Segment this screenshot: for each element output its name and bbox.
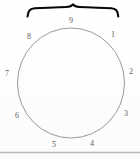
position-label-4: 4 [90,140,94,148]
position-label-5: 5 [52,141,56,149]
position-label-2: 2 [129,68,133,76]
circle-outline [18,28,125,138]
figure-container: 9 1 2 3 4 5 6 7 8 [0,0,140,159]
position-label-3: 3 [124,110,128,118]
position-label-6: 6 [15,112,19,120]
position-label-1: 1 [111,31,115,39]
position-label-7: 7 [5,70,9,78]
brace-label-9: 9 [69,17,73,25]
top-brace-icon [28,4,119,16]
position-label-8: 8 [27,33,31,41]
